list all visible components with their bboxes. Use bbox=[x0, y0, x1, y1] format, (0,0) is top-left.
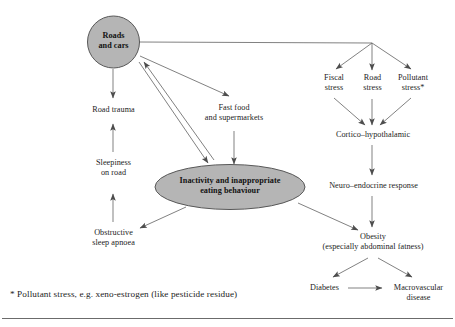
edge-inactivity-to-apnoea bbox=[140, 207, 186, 228]
footnote: * Pollutant stress, e.g. xeno-estrogen (… bbox=[10, 288, 237, 300]
edge-fiscal-to-cortico bbox=[334, 98, 365, 125]
node-sleepiness: Sleepiness on road bbox=[73, 158, 154, 179]
node-macrovascular: Macrovascular disease bbox=[384, 283, 453, 304]
edge-obesity-to-diabetes bbox=[333, 258, 368, 277]
edge-hub-to-fiscal-stress bbox=[336, 43, 372, 69]
edge-pollutant-to-cortico bbox=[380, 98, 411, 125]
edge-roads-trunk bbox=[138, 42, 372, 43]
node-road-trauma: Road trauma bbox=[73, 105, 154, 115]
node-pollutant-stress: Pollutant stress* bbox=[382, 73, 444, 94]
edge-roads-to-fast-food bbox=[140, 56, 229, 96]
node-obstructive-apnoea: Obstructive sleep apnoea bbox=[68, 228, 159, 249]
node-diabetes: Diabetes bbox=[300, 283, 349, 293]
node-fast-food: Fast food and supermarkets bbox=[180, 103, 288, 124]
diagram-canvas bbox=[0, 0, 455, 327]
edge-hub-to-pollutant-stress bbox=[372, 43, 411, 69]
edge-inactivity-to-obesity bbox=[298, 203, 358, 230]
node-neuro-endocrine: Neuro–endocrine response bbox=[304, 181, 443, 191]
node-obesity: Obesity (especially abdominal fatness) bbox=[296, 232, 450, 253]
roads-and-cars-label: Roads and cars bbox=[73, 31, 154, 51]
node-cortico-hypothalamic: Cortico–hypothalamic bbox=[314, 130, 432, 140]
edge-obesity-to-macrovascular bbox=[378, 258, 412, 277]
inactivity-label: Inactivity and inappropriate eating beha… bbox=[160, 176, 300, 196]
